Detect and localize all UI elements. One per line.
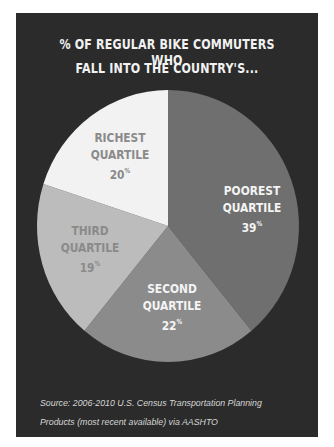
percent-sign: % xyxy=(177,318,183,326)
slice-label-poorest: POOREST QUARTILE 39% xyxy=(219,182,285,236)
percent-sign: % xyxy=(125,167,131,175)
slice-value: 39 xyxy=(242,220,257,235)
source-line-1: Source: 2006-2010 U.S. Census Transporta… xyxy=(40,394,310,413)
slice-value: 20 xyxy=(110,167,125,182)
source-note: Source: 2006-2010 U.S. Census Transporta… xyxy=(40,394,310,432)
slice-name: QUARTILE xyxy=(139,297,205,314)
slice-value: 19 xyxy=(80,260,95,275)
slice-label-richest: RICHEST QUARTILE 20% xyxy=(87,129,153,183)
slice-label-third: THIRD QUARTILE 19% xyxy=(57,222,123,276)
slice-name: QUARTILE xyxy=(87,146,153,163)
slice-name: SECOND xyxy=(139,280,205,297)
percent-sign: % xyxy=(95,260,101,268)
source-line-2: Products (most recent available) via AAS… xyxy=(40,413,310,432)
slice-value: 22 xyxy=(162,318,177,333)
slice-name: POOREST xyxy=(219,182,285,199)
slice-name: RICHEST xyxy=(87,129,153,146)
slice-name: QUARTILE xyxy=(57,239,123,256)
percent-sign: % xyxy=(257,220,263,228)
slice-name: QUARTILE xyxy=(219,199,285,216)
slice-label-second: SECOND QUARTILE 22% xyxy=(139,280,205,334)
slice-name: THIRD xyxy=(57,222,123,239)
